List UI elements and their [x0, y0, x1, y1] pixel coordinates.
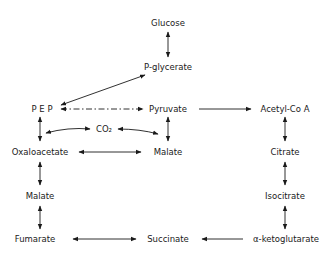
node-acetyl-coa: Acetyl-Co A — [260, 105, 309, 114]
arrow-pglycerate-pep — [61, 75, 145, 105]
node-pyruvate: Pyruvate — [149, 105, 187, 114]
node-oxaloacetate: Oxaloacetate — [12, 148, 69, 157]
node-isocitrate: Isocitrate — [265, 192, 305, 201]
node-succinate: Succinate — [147, 235, 189, 244]
node-alpha-ketoglutarate: α-ketoglutarate — [253, 235, 319, 244]
arrow-co2-malate — [118, 129, 158, 134]
node-malate-mid: Malate — [154, 148, 183, 157]
node-citrate: Citrate — [271, 148, 300, 157]
pathway-arrows — [0, 0, 329, 255]
node-malate-left: Malate — [26, 192, 55, 201]
node-fumarate: Fumarate — [15, 235, 56, 244]
metabolic-pathway-diagram: Glucose P-glycerate P E P Pyruvate Acety… — [0, 0, 329, 255]
node-co2: CO₂ — [96, 125, 112, 134]
node-p-glycerate: P-glycerate — [144, 63, 192, 72]
node-pep: P E P — [31, 105, 52, 114]
node-glucose: Glucose — [151, 19, 185, 28]
arrow-oxaloacetate-co2 — [46, 129, 90, 134]
